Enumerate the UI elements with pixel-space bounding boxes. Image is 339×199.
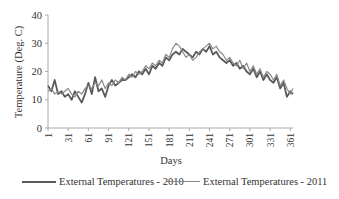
x-tick-label: 361 xyxy=(286,133,296,148)
legend-item-2010: External Temperatures - 2010 xyxy=(22,176,184,187)
x-tick-label: 91 xyxy=(104,133,114,143)
x-tick-label: 181 xyxy=(165,133,175,148)
x-tick-label: 241 xyxy=(205,133,215,148)
y-axis-label: Temperature (Deg. C) xyxy=(13,25,25,118)
legend-swatch-2010 xyxy=(22,181,56,183)
x-tick-label: 211 xyxy=(185,133,195,147)
x-tick-label: 331 xyxy=(266,133,276,148)
y-tick-label: 30 xyxy=(32,38,43,49)
x-tick-label: 31 xyxy=(64,133,74,143)
x-tick-label: 271 xyxy=(225,133,235,148)
series-2011-line xyxy=(48,43,293,97)
series-lines xyxy=(48,43,293,102)
x-axis: 1316191121151181211241271301331361 xyxy=(44,128,296,147)
legend-item-2011: External Temperatures - 2011 xyxy=(166,176,327,187)
legend-label-2011: External Temperatures - 2011 xyxy=(203,176,327,187)
x-axis-label: Days xyxy=(160,155,182,166)
y-tick-label: 20 xyxy=(32,66,43,77)
x-tick-label: 151 xyxy=(144,133,154,148)
x-tick-label: 61 xyxy=(84,133,94,143)
y-axis: 010203040 xyxy=(32,10,49,134)
x-tick-label: 1 xyxy=(44,133,54,138)
x-tick-label: 301 xyxy=(245,133,255,148)
y-tick-label: 0 xyxy=(37,123,42,134)
temperature-line-chart: 010203040 131619112115118121124127130133… xyxy=(0,0,339,199)
legend: External Temperatures - 2010 External Te… xyxy=(0,176,339,192)
y-tick-label: 10 xyxy=(32,94,43,105)
legend-swatch-2011 xyxy=(166,181,200,182)
y-tick-label: 40 xyxy=(32,10,43,21)
x-tick-label: 121 xyxy=(124,133,134,148)
